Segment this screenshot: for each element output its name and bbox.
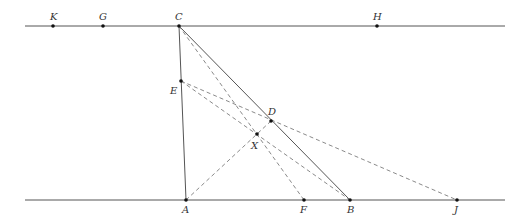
point-H — [375, 24, 379, 28]
label-C: C — [175, 11, 183, 22]
label-J: J — [452, 204, 459, 215]
segment-CA — [179, 26, 186, 200]
label-A: A — [181, 204, 189, 215]
point-E — [179, 79, 183, 83]
dashed-segment-EJ — [181, 81, 457, 200]
dashed-segment-EB — [181, 81, 350, 200]
point-B — [348, 198, 352, 202]
geometry-diagram: K G C H E D X A F B J — [0, 0, 528, 221]
segment-CB — [179, 26, 350, 200]
label-K: K — [49, 11, 58, 22]
point-A — [184, 198, 188, 202]
label-H: H — [372, 11, 382, 22]
label-B: B — [346, 204, 354, 215]
label-G: G — [99, 11, 107, 22]
label-E: E — [169, 85, 178, 96]
point-G — [101, 24, 105, 28]
point-J — [455, 198, 459, 202]
point-D — [269, 119, 273, 123]
point-X — [255, 132, 259, 136]
label-D: D — [267, 106, 276, 117]
point-F — [302, 198, 306, 202]
label-X: X — [250, 140, 259, 151]
point-C — [177, 24, 181, 28]
point-K — [51, 24, 55, 28]
dashed-segment-CF — [179, 26, 304, 200]
label-F: F — [299, 204, 308, 215]
